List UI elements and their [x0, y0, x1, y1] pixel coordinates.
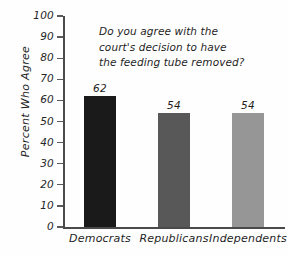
bar-republicans [158, 113, 190, 227]
y-axis-line [63, 16, 65, 228]
x-axis-line [63, 227, 285, 229]
bar-democrats [84, 96, 116, 227]
y-tick-label: 20 [24, 179, 54, 190]
chart-title: Do you agree with the court's decision t… [99, 24, 259, 71]
y-tick-mark [57, 205, 63, 206]
x-category-label: Independents [203, 232, 289, 245]
y-tick-mark [57, 226, 63, 227]
y-tick-mark [57, 163, 63, 164]
bar-independents [232, 113, 264, 227]
bar-value-label: 54 [228, 99, 268, 111]
chart-title-line-1: Do you agree with the [99, 24, 259, 40]
y-axis-title: Percent Who Agree [19, 32, 32, 172]
y-tick-label: 100 [24, 10, 54, 21]
y-tick-mark [57, 15, 63, 16]
y-tick-mark [57, 58, 63, 59]
y-tick-mark [57, 121, 63, 122]
y-tick-label: 10 [24, 200, 54, 211]
y-tick-mark [57, 79, 63, 80]
chart-title-line-2: court's decision to have [99, 40, 259, 56]
y-tick-mark [57, 36, 63, 37]
bar-value-label: 54 [154, 99, 194, 111]
bar-value-label: 62 [80, 82, 120, 94]
chart-title-line-3: the feeding tube removed? [99, 55, 259, 71]
y-tick-label: 0 [24, 221, 54, 232]
y-tick-mark [57, 100, 63, 101]
bar-chart: 1009080706050403020100 Percent Who Agree… [0, 0, 289, 257]
y-tick-mark [57, 142, 63, 143]
y-tick-mark [57, 184, 63, 185]
